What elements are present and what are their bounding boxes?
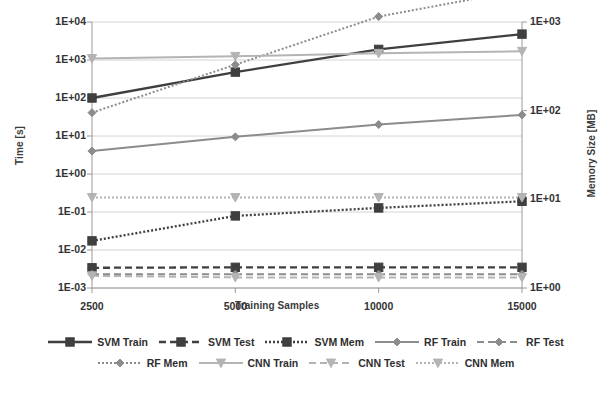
legend-swatch <box>415 356 461 370</box>
marker-triangle <box>517 273 526 282</box>
marker-square <box>66 337 74 345</box>
marker-square <box>177 337 185 345</box>
chart-container: Time [s] Memory Size [MB] Training Sampl… <box>0 0 611 394</box>
legend-row-1: SVM TrainSVM TestSVM MemRF TrainRF Test <box>8 331 603 352</box>
legend-swatch <box>374 335 420 349</box>
marker-diamond <box>88 147 96 155</box>
marker-diamond <box>518 111 526 119</box>
legend-item-svm-train[interactable]: SVM Train <box>47 331 148 352</box>
legend-row-2: RF MemCNN TrainCNN TestCNN Mem <box>8 352 603 373</box>
legend-item-label: RF Train <box>424 336 466 348</box>
series-line-rf-mem <box>92 0 522 113</box>
marker-diamond <box>116 359 124 367</box>
series-line-svm-mem <box>92 201 522 241</box>
legend-item-cnn-test[interactable]: CNN Test <box>308 352 404 373</box>
legend-item-rf-test[interactable]: RF Test <box>476 331 564 352</box>
marker-diamond <box>375 121 383 129</box>
legend-item-cnn-mem[interactable]: CNN Mem <box>415 352 515 373</box>
marker-square <box>231 212 239 220</box>
legend-swatch <box>308 356 354 370</box>
legend-item-rf-mem[interactable]: RF Mem <box>97 352 188 373</box>
legend-item-label: SVM Train <box>97 336 148 348</box>
legend-swatch <box>158 335 204 349</box>
legend-swatch <box>97 356 143 370</box>
legend-item-rf-train[interactable]: RF Train <box>374 331 466 352</box>
marker-diamond <box>375 13 383 21</box>
legend-item-label: CNN Mem <box>465 357 515 369</box>
marker-triangle <box>87 194 96 203</box>
marker-diamond <box>393 338 401 346</box>
legend-item-label: CNN Train <box>248 357 299 369</box>
legend-swatch <box>198 356 244 370</box>
legend-item-svm-test[interactable]: SVM Test <box>158 331 254 352</box>
series-line-svm-train <box>92 34 522 98</box>
legend-swatch <box>264 335 310 349</box>
marker-diamond <box>88 109 96 117</box>
marker-square <box>518 30 526 38</box>
marker-square <box>283 337 291 345</box>
marker-diamond <box>231 133 239 141</box>
marker-square <box>88 94 96 102</box>
series-line-cnn-test <box>92 276 522 278</box>
legend-item-label: SVM Test <box>208 336 254 348</box>
marker-square <box>374 204 382 212</box>
series-line-cnn-train <box>92 51 522 58</box>
legend-item-label: CNN Test <box>358 357 404 369</box>
series-line-svm-test <box>92 267 522 268</box>
legend-item-label: RF Test <box>526 336 564 348</box>
legend-item-label: SVM Mem <box>314 336 364 348</box>
series-line-rf-train <box>92 115 522 151</box>
legend-swatch <box>47 335 93 349</box>
legend-item-svm-mem[interactable]: SVM Mem <box>264 331 364 352</box>
marker-diamond <box>495 338 503 346</box>
legend-item-label: RF Mem <box>147 357 188 369</box>
legend-item-cnn-train[interactable]: CNN Train <box>198 352 299 373</box>
chart-legend: SVM TrainSVM TestSVM MemRF TrainRF Test … <box>8 331 603 387</box>
legend-swatch <box>476 335 522 349</box>
marker-square <box>88 237 96 245</box>
